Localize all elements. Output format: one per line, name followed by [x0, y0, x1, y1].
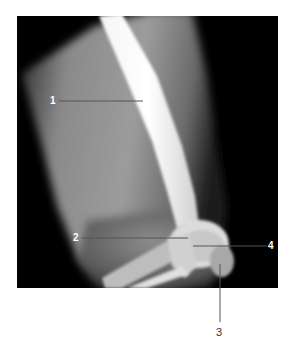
label-3: 3 — [216, 327, 222, 337]
label-2: 2 — [73, 233, 79, 243]
xray-image — [17, 16, 278, 288]
xray-illustration — [17, 16, 278, 288]
label-4: 4 — [268, 241, 274, 251]
label-1: 1 — [50, 96, 56, 106]
knee-radiograph-figure: 1 2 4 3 — [0, 0, 289, 356]
